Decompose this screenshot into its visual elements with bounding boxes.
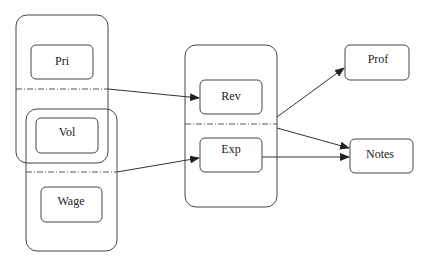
node-exp[interactable]: Exp [200,138,262,172]
node-label: Notes [366,147,394,161]
edge-group-to-notes [277,128,349,148]
node-label: Exp [221,142,240,156]
node-label: Prof [368,52,389,66]
node-rev[interactable]: Rev [200,80,262,114]
node-label: Rev [221,89,240,103]
node-label: Wage [57,194,84,208]
edge-group-to-exp [117,158,199,172]
node-vol[interactable]: Vol [36,118,98,153]
diagram-canvas: Pri Vol Wage Rev Exp Prof Notes [0,0,427,268]
edge-group-to-prof [277,68,344,117]
node-prof[interactable]: Prof [345,45,409,80]
node-label: Vol [59,125,76,139]
node-notes[interactable]: Notes [350,139,413,173]
node-wage[interactable]: Wage [41,187,102,222]
node-pri[interactable]: Pri [31,45,93,79]
node-label: Pri [55,54,70,68]
group-rev-exp [185,45,277,207]
